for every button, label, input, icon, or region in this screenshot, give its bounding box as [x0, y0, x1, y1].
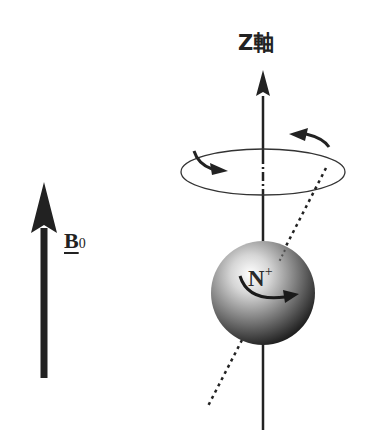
spin-axis-dotted-lower	[207, 340, 242, 408]
nucleus-sphere	[211, 241, 315, 345]
nucleus-label-main: N	[248, 266, 265, 291]
precession-arrow-right-icon	[289, 128, 329, 147]
z-axis-label: Z軸	[238, 26, 298, 56]
spin-axis-dotted-upper	[285, 168, 326, 248]
z-axis-arrow	[256, 70, 270, 155]
b0-label-subscript: 0	[79, 236, 86, 251]
nucleus-label-charge: +	[265, 264, 273, 279]
nmr-precession-diagram: Z軸 B0 N+	[0, 0, 369, 448]
nucleus-label: N+	[248, 264, 273, 292]
b0-field-arrow	[31, 182, 57, 378]
b0-label-main: B	[64, 228, 79, 253]
diagram-canvas	[0, 0, 369, 448]
b0-label: B0	[64, 228, 86, 254]
